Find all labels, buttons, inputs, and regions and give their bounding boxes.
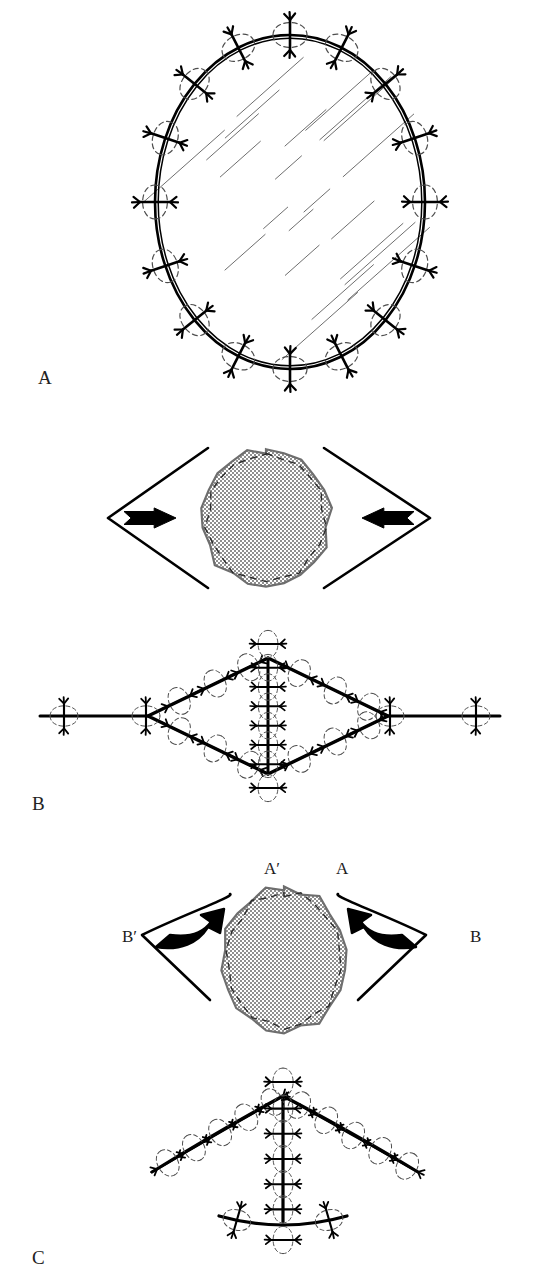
hatch-stroke [324, 72, 401, 140]
suture-mark [213, 328, 264, 384]
suture-bar [369, 1145, 390, 1157]
suture-bar [183, 311, 206, 330]
suture-bar [183, 74, 206, 93]
suture-bar [335, 34, 349, 61]
suture-mark [250, 630, 287, 657]
figure-root: A B C A′ A B′ B [0, 0, 533, 1288]
hatch-stroke [289, 209, 313, 230]
panel-label-a: A [38, 368, 52, 387]
defect-stippled-fill [201, 449, 332, 586]
suture-mark [265, 1226, 302, 1253]
suture-bar [204, 743, 226, 754]
suture-mark [218, 1198, 255, 1242]
hatch-stroke [275, 156, 301, 179]
suture-mark [156, 680, 202, 722]
suture-mark [312, 721, 358, 763]
hatch-stroke [304, 189, 330, 212]
suture-mark [156, 710, 202, 752]
suture-bar [374, 74, 397, 93]
panel-label-b: B [32, 794, 45, 813]
suture-mark [388, 242, 442, 289]
hatch-stroke [285, 245, 319, 275]
hatch-stroke [343, 114, 414, 177]
suture-mark [249, 1081, 296, 1124]
suture-bar [204, 678, 226, 689]
suture-mark [213, 19, 264, 75]
panel-b-closure-illustration [40, 630, 500, 801]
suture-bar [324, 736, 346, 747]
suture-mark [192, 663, 238, 705]
suture-bar [209, 1126, 230, 1138]
suture-bar [288, 754, 310, 765]
suture-bar [168, 726, 190, 737]
vertex-label-a: A [336, 860, 348, 877]
suture-mark [250, 774, 287, 801]
panel-b-excision-illustration [108, 448, 430, 588]
surgical-closure-figure [0, 0, 533, 1288]
advancement-arrow-left [124, 508, 176, 528]
panel-label-c: C [32, 1248, 45, 1267]
suture-bar [342, 1129, 363, 1141]
hatch-stroke [348, 228, 430, 300]
panel-c-flap-illustration [142, 887, 426, 1034]
suture-bar [396, 1160, 417, 1172]
suture-bar [358, 701, 380, 712]
suture-mark [144, 1141, 191, 1184]
suture-mark [312, 670, 358, 712]
hatch-stroke [312, 265, 374, 320]
panel-c-closure-illustration [144, 1068, 430, 1254]
hatch-stroke [225, 90, 279, 138]
suture-bar [358, 720, 380, 731]
hatch-stroke [306, 71, 373, 130]
suture-bar [324, 685, 346, 696]
suture-mark [264, 1068, 302, 1096]
suture-bar [374, 311, 397, 330]
suture-mark [388, 115, 442, 162]
suture-bar [236, 1111, 257, 1123]
suture-bar [183, 1142, 204, 1154]
suture-bar [262, 1096, 283, 1108]
suture-mark [197, 1111, 244, 1154]
suture-bar [157, 1157, 178, 1169]
suture-bar [231, 343, 245, 370]
vertex-label-a-prime: A′ [264, 860, 280, 877]
advancement-arrow-right [362, 508, 414, 528]
suture-bar [231, 34, 245, 61]
suture-mark [171, 1126, 218, 1169]
suture-mark [316, 19, 367, 75]
vertex-label-b-prime: B′ [122, 928, 137, 945]
hatch-stroke [264, 207, 288, 228]
suture-bar [315, 1114, 336, 1126]
suture-bar [288, 668, 310, 679]
hatch-stroke [220, 141, 260, 177]
hatch-stroke [345, 222, 415, 284]
hatch-stroke [225, 234, 265, 270]
suture-mark [192, 728, 238, 770]
hatch-stroke [341, 223, 403, 278]
suture-mark [138, 242, 192, 289]
vertex-label-b: B [470, 928, 481, 945]
suture-mark [316, 328, 367, 384]
suture-bar [335, 343, 349, 370]
hatch-stroke [207, 114, 259, 160]
rotation-arrow-left [156, 909, 224, 948]
suture-mark [138, 115, 192, 162]
suture-mark [223, 1096, 270, 1139]
panel-a-illustration [132, 12, 448, 392]
suture-mark [310, 1198, 347, 1242]
suture-bar [168, 696, 190, 707]
hatch-stroke [332, 201, 374, 239]
defect-stippled-fill [221, 887, 346, 1034]
hatch-stroke [285, 110, 326, 146]
